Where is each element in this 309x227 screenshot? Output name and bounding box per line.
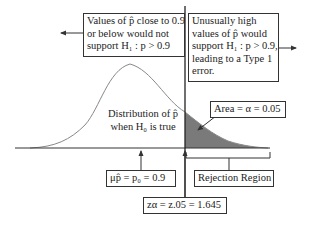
right-box-line-5: error. <box>192 65 275 78</box>
right-annotation-box: Unusually high values of p̂ would suppor… <box>188 13 279 82</box>
right-box-line-4: leading to a Type 1 <box>192 53 275 66</box>
right-box-line-1: Unusually high <box>192 15 275 28</box>
right-box-line-2: values of p̂ would <box>192 28 275 41</box>
left-annotation-box: Values of p̂ close to 0.9 or below would… <box>83 13 185 57</box>
mean-box: μp̂ = p₀ = 0.9 <box>106 170 176 187</box>
rejection-region-bracket <box>186 152 270 170</box>
mean-text: μp̂ = p₀ = 0.9 <box>110 172 165 183</box>
area-alpha-text: Area = α = 0.05 <box>214 103 281 114</box>
area-pointer-arrow <box>198 116 216 130</box>
left-box-line-2: or below would not <box>87 28 181 41</box>
distribution-label-line-1: Distribution of p̂ <box>100 108 186 121</box>
rejection-region-box: Rejection Region <box>194 170 274 187</box>
left-box-line-1: Values of p̂ close to 0.9 <box>87 15 181 28</box>
area-alpha-box: Area = α = 0.05 <box>210 101 286 118</box>
left-box-line-3: support H₁ : p > 0.9 <box>87 40 181 53</box>
critical-value-text: zα = z.05 = 1.645 <box>147 199 221 210</box>
rejection-region-text: Rejection Region <box>198 172 271 183</box>
distribution-label: Distribution of p̂ when H₀ is true <box>100 108 186 133</box>
right-box-line-3: support H₁ : p > 0.9, <box>192 40 275 53</box>
critical-value-box: zα = z.05 = 1.645 <box>143 197 227 214</box>
distribution-label-line-2: when H₀ is true <box>100 121 186 134</box>
